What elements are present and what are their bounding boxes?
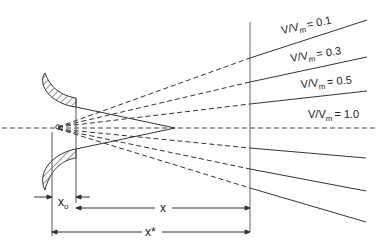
label-ratio-1.0: V/Vm= 1.0 (308, 108, 359, 123)
nozzle-lower-lip (43, 149, 76, 190)
label-ratio-0.5: V/Vm= 0.5 (300, 74, 352, 93)
ray-0.3-lower (58, 129, 366, 191)
label-ratio-0.1: V/Vm= 0.1 (280, 14, 333, 39)
jet-diagram: V/Vm= 0.1 V/Vm= 0.3 V/Vm= 0.5 V/Vm= 1.0 … (0, 0, 388, 252)
label-x0: xo (58, 195, 69, 211)
core-edge-lower (76, 128, 175, 149)
label-x: x (160, 201, 166, 215)
core-edge-upper (76, 107, 175, 128)
label-xstar: x* (145, 225, 156, 239)
nozzle-upper-lip (43, 73, 76, 107)
